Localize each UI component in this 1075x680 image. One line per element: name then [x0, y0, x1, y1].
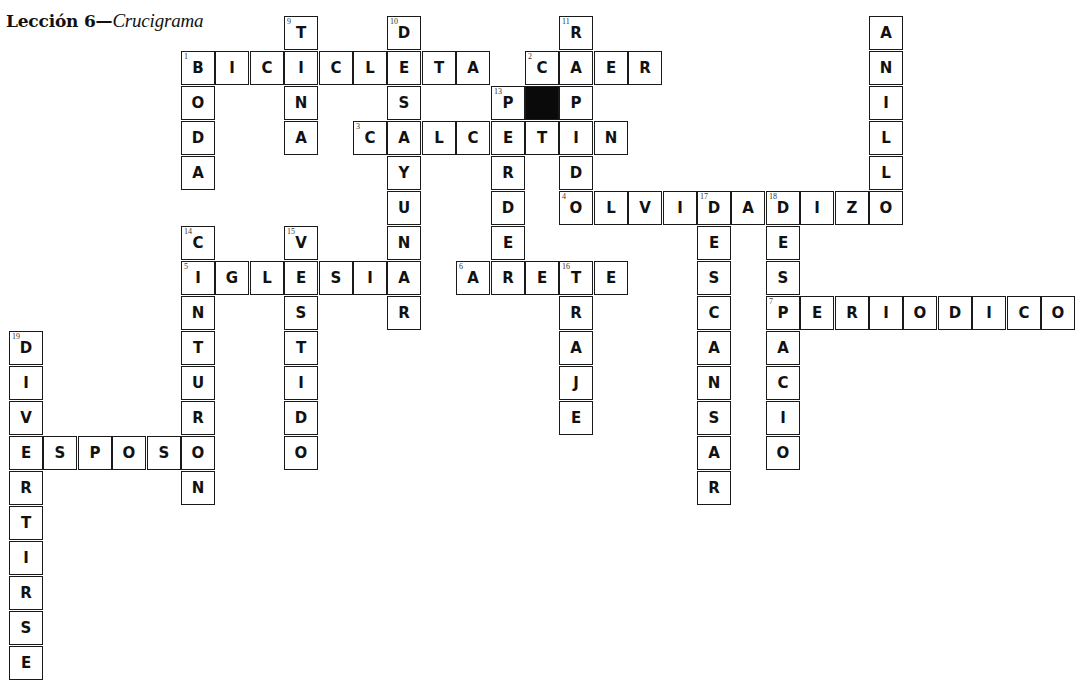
crossword-cell: 18D [766, 191, 800, 225]
cell-letter: T [193, 339, 203, 357]
cell-letter: R [708, 479, 720, 497]
cell-letter: O [192, 444, 205, 462]
cell-letter: E [606, 269, 616, 287]
cell-letter: V [20, 409, 32, 427]
cell-letter: I [780, 409, 786, 427]
crossword-cell: N [181, 296, 215, 330]
crossword-cell: S [697, 261, 731, 295]
cell-letter: A [570, 59, 582, 77]
cell-letter: A [708, 339, 720, 357]
crossword-cell: D [559, 156, 593, 190]
crossword-cell: G [215, 261, 249, 295]
crossword-cell: O [1041, 296, 1075, 330]
crossword-cell: D [938, 296, 972, 330]
cell-letter: T [537, 129, 547, 147]
crossword-cell: I [559, 121, 593, 155]
cell-letter: L [606, 199, 616, 217]
cell-letter: O [880, 199, 893, 217]
clue-number: 10 [390, 17, 398, 26]
cell-letter: R [570, 304, 582, 322]
crossword-cell: V [9, 401, 43, 435]
crossword-cell: A [559, 331, 593, 365]
cell-letter: I [195, 269, 201, 287]
cell-letter: R [20, 584, 32, 602]
cell-letter: D [777, 199, 789, 217]
cell-letter: C [708, 304, 719, 322]
crossword-cell: E [800, 296, 834, 330]
clue-number: 1 [184, 52, 188, 61]
crossword-cell: 9T [284, 16, 318, 50]
cell-letter: L [881, 129, 891, 147]
cell-letter: S [331, 269, 342, 287]
cell-letter: N [605, 129, 618, 147]
cell-letter: E [812, 304, 822, 322]
crossword-cell: N [387, 226, 421, 260]
cell-letter: N [192, 304, 205, 322]
crossword-cell: L [869, 156, 903, 190]
crossword-cell: 14C [181, 226, 215, 260]
crossword-cell: E [491, 121, 525, 155]
crossword-cell: C [766, 366, 800, 400]
crossword-cell: A [697, 331, 731, 365]
crossword-cell: 2C [525, 51, 559, 85]
crossword-cell: D [491, 191, 525, 225]
clue-number: 7 [769, 297, 773, 306]
cell-letter: N [708, 374, 721, 392]
cell-letter: R [20, 479, 32, 497]
crossword-cell: E [387, 51, 421, 85]
crossword-cell: I [215, 51, 249, 85]
crossword-cell: 17D [697, 191, 731, 225]
cell-letter: E [503, 129, 513, 147]
cell-letter: T [296, 24, 306, 42]
crossword-cell: S [766, 261, 800, 295]
cell-letter: D [949, 304, 961, 322]
cell-letter: L [434, 129, 444, 147]
clue-number: 11 [562, 17, 570, 26]
crossword-cell: R [628, 51, 662, 85]
cell-letter: R [639, 59, 651, 77]
cell-letter: O [295, 444, 308, 462]
crossword-cell: S [319, 261, 353, 295]
crossword-cell: 3C [353, 121, 387, 155]
crossword-cell: E [491, 226, 525, 260]
clue-number: 3 [356, 122, 360, 131]
cell-letter: S [296, 304, 307, 322]
crossword-cell: O [181, 436, 215, 470]
crossword-cell: T [181, 331, 215, 365]
cell-letter: E [296, 269, 306, 287]
cell-letter: D [502, 199, 514, 217]
cell-letter: Y [399, 164, 410, 182]
clue-number: 5 [184, 262, 188, 271]
crossword-cell: R [559, 296, 593, 330]
cell-letter: I [23, 374, 29, 392]
cell-letter: A [192, 164, 204, 182]
cell-letter: T [296, 339, 306, 357]
cell-letter: R [192, 409, 204, 427]
cell-letter: N [880, 59, 893, 77]
crossword-cell: T [525, 121, 559, 155]
cell-letter: B [192, 59, 203, 77]
crossword-cell: 15V [284, 226, 318, 260]
crossword-cell: 7P [766, 296, 800, 330]
cell-letter: I [883, 304, 889, 322]
crossword-cell: O [903, 296, 937, 330]
crossword-cell: N [284, 86, 318, 120]
crossword-cell: R [387, 296, 421, 330]
crossword-cell: U [181, 366, 215, 400]
cell-letter: R [570, 24, 582, 42]
crossword-cell: O [181, 86, 215, 120]
crossword-cell: I [766, 401, 800, 435]
crossword-cell: C [250, 51, 284, 85]
crossword-cell: I [972, 296, 1006, 330]
crossword-cell: 1B [181, 51, 215, 85]
cell-letter: A [295, 129, 307, 147]
cell-letter: A [742, 199, 754, 217]
crossword-cell: U [387, 191, 421, 225]
crossword-cell: Y [387, 156, 421, 190]
cell-letter: S [399, 94, 410, 112]
cell-letter: A [467, 59, 479, 77]
clue-number: 17 [700, 192, 708, 201]
crossword-cell: A [869, 16, 903, 50]
cell-letter: A [398, 129, 410, 147]
crossword-cell: C [456, 121, 490, 155]
